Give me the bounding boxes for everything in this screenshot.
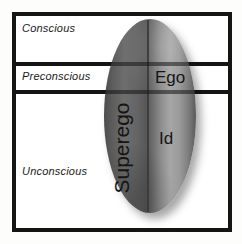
structure-label-ego: Ego <box>155 68 185 88</box>
band-overlay-upper <box>104 62 196 66</box>
level-label-preconscious: Preconscious <box>22 70 90 82</box>
psyche-vertical-divider <box>147 20 149 212</box>
band-overlay-lower <box>104 90 196 94</box>
structure-label-id: Id <box>159 129 173 149</box>
level-label-unconscious: Unconscious <box>22 165 87 177</box>
structure-label-superego: Superego <box>110 102 134 193</box>
level-label-conscious: Conscious <box>22 22 75 34</box>
freud-psyche-diagram: Conscious Preconscious Unconscious Ego I… <box>0 0 242 244</box>
